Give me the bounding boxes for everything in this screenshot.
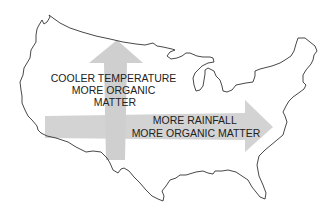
north-label-line-1: COOLER TEMPERATURE [51,72,177,84]
us-outline [20,15,317,201]
east-label-line-2: MORE ORGANIC MATTER [132,127,261,139]
north-label-line-3: MATTER [94,96,137,108]
east-arrow [45,100,273,152]
north-arrow-label: COOLER TEMPERATURE MORE ORGANIC MATTER [51,72,180,108]
north-label-line-2: MORE ORGANIC [72,84,156,96]
us-organic-matter-diagram: COOLER TEMPERATURE MORE ORGANIC MATTER M… [0,0,330,211]
east-arrow-shape [45,100,273,152]
east-label-line-1: MORE RAINFALL [153,114,237,126]
